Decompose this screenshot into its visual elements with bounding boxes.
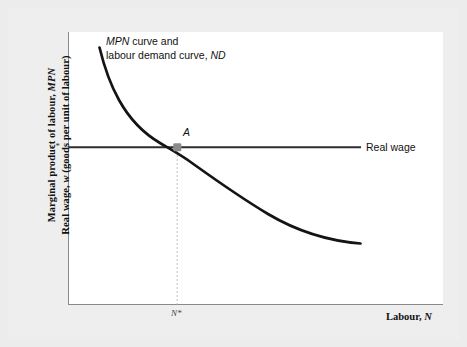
point-a-marker [173, 143, 181, 151]
y-axis-title-line2-prefix: Real wage, [60, 183, 71, 235]
y-axis-title-line2: Real wage, w (goods per unit of labour) [59, 15, 73, 275]
curve-annotation-label: MPN curve and labour demand curve, ND [106, 35, 226, 62]
curve-annotation-line1-rest: curve and [129, 35, 178, 47]
y-axis-title-line2-italic: w [60, 175, 71, 182]
figure-container: Marginal product of labour, MPN Real wag… [0, 0, 467, 347]
curve-annotation-line1-italic: MPN [106, 35, 129, 47]
curve-annotation-line2: labour demand curve, ND [106, 49, 226, 63]
y-axis-title-line1-prefix: Marginal product of labour, [46, 91, 57, 222]
x-axis-title-italic: N [424, 311, 432, 322]
point-a-label: A [183, 126, 190, 138]
curve-annotation-line2-prefix: labour demand curve, [106, 49, 210, 61]
x-axis-title-prefix: Labour, [386, 311, 424, 322]
x-axis-tick-label-nstar: N* [171, 308, 182, 318]
curve-annotation-line2-italic: ND [210, 49, 225, 61]
y-axis-title-line1-italic: MPN [46, 68, 57, 92]
x-axis-title: Labour, N [386, 311, 432, 322]
real-wage-line-label: Real wage [366, 141, 416, 153]
y-axis-tick-label-wstar: w* [49, 141, 60, 151]
curve-annotation-line1: MPN curve and [106, 35, 226, 49]
y-axis-title-line2-suffix: (goods per unit of labour) [60, 55, 71, 175]
mpn-labour-demand-curve [100, 48, 361, 244]
